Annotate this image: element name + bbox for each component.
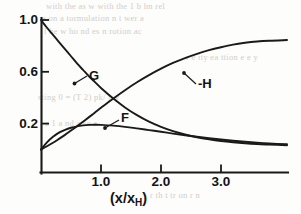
figure-canvas: with the as w with the 1 b hn rel e on a… bbox=[0, 0, 301, 214]
series-label-minus-h: -H bbox=[198, 76, 212, 91]
y-tick-label-0-6: 0.6 bbox=[0, 64, 38, 79]
annotation-leader-g bbox=[73, 76, 87, 85]
series-label-f: F bbox=[121, 110, 129, 125]
x-axis-ticks bbox=[101, 165, 221, 173]
annotation-leader-minus-h bbox=[182, 71, 196, 84]
y-axis-ticks bbox=[42, 20, 50, 124]
y-tick-label-0-2: 0.2 bbox=[0, 116, 38, 131]
x-tick-label-2-0: 2.0 bbox=[141, 174, 181, 189]
x-axis-title-tail: ) bbox=[142, 190, 147, 206]
x-tick-label-1-0: 1.0 bbox=[81, 174, 121, 189]
y-tick-label-1-0: 1.0 bbox=[0, 12, 38, 27]
x-axis-title: (x/xH) bbox=[110, 190, 147, 208]
x-tick-label-3-0: 3.0 bbox=[201, 174, 241, 189]
x-axis-title-main: (x/x bbox=[110, 190, 135, 206]
series-label-g: G bbox=[89, 68, 99, 83]
